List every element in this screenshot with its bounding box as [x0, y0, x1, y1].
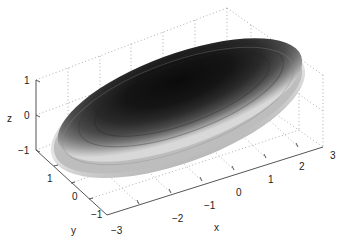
x-tick: 2: [299, 161, 305, 172]
x-tick: 1: [268, 174, 274, 185]
x-axis-label: x: [214, 222, 219, 233]
z-axis-label: z: [7, 113, 12, 124]
ellipsoid-3d-plot: 1 0 −1 z 1 0 −1 y −3 −2 −1 0 1 2 3 x: [0, 0, 345, 244]
x-tick: −2: [172, 213, 184, 224]
y-tick: 0: [72, 191, 78, 202]
y-tick: −1: [91, 209, 103, 220]
z-tick: 1: [24, 75, 30, 86]
z-tick: 0: [24, 110, 30, 121]
z-tick: −1: [18, 145, 30, 156]
x-tick: 3: [330, 150, 336, 161]
y-tick: 1: [47, 173, 53, 184]
ellipsoid-surface: [34, 13, 321, 206]
x-tick: −1: [204, 200, 216, 211]
x-tick: 0: [236, 187, 242, 198]
x-tick: −3: [111, 225, 123, 236]
y-axis-label: y: [71, 225, 76, 236]
y-tick-labels: 1 0 −1: [47, 173, 103, 220]
z-tick-labels: 1 0 −1: [18, 75, 30, 156]
